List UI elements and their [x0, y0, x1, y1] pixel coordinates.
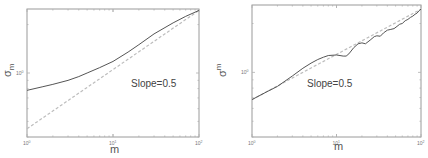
left-slope-reference-line [27, 10, 199, 128]
right-x-axis-label: m [334, 140, 343, 152]
left-slope-annotation: Slope=0.5 [131, 78, 177, 89]
right-slope-annotation: Slope=0.5 [307, 78, 353, 89]
left-y-tick-labels: 100 [16, 70, 24, 76]
left-x-axis-label: m [110, 143, 119, 155]
y-tick-label: 100 [241, 69, 249, 75]
right-ticks [252, 5, 421, 137]
right-y-tick-labels: 100 [241, 69, 249, 75]
x-tick-label: 102 [195, 140, 203, 146]
chart-canvas: 100101102 100 Slope=0.5 m σm 100101102 1… [0, 0, 428, 158]
x-tick-label: 100 [248, 140, 256, 146]
x-tick-label: 102 [417, 140, 425, 146]
x-tick-label: 100 [23, 140, 31, 146]
left-y-axis-label: σm [1, 63, 16, 77]
right-y-axis-label: σm [214, 63, 228, 77]
left-panel: 100101102 100 Slope=0.5 m σm [1, 9, 203, 155]
right-panel: 100101102 100 Slope=0.5 m σm [214, 5, 425, 152]
y-tick-label: 100 [16, 70, 24, 76]
right-axes-frame [252, 5, 421, 137]
